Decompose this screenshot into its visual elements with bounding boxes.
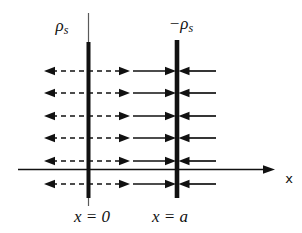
x-axis-arrowhead [263, 165, 275, 174]
solid-arrow-into-plane-left-head [165, 112, 176, 121]
solid-arrow-into-plane-left-head [165, 157, 176, 166]
dashed-arrow-left-head [44, 112, 55, 121]
solid-arrow-into-plane-right-head [179, 67, 190, 76]
solid-arrow-into-plane-left-head [165, 134, 176, 143]
rho-subscript: s [64, 23, 69, 37]
solid-arrow-into-plane-right-head [179, 89, 190, 98]
solid-arrow-into-plane-left-head [165, 180, 176, 189]
minus-rho-symbol: −ρ [169, 14, 189, 33]
negative-plane-density-label: −ρs [169, 14, 194, 35]
minus-rho-subscript: s [188, 21, 193, 35]
x-axis-label: x [285, 171, 293, 186]
dashed-arrow-right-head [119, 112, 130, 121]
dashed-arrow-left-head [44, 157, 55, 166]
figure-canvas: ρs −ρs x = 0 x = a x [0, 0, 302, 233]
solid-arrow-into-plane-left-head [165, 89, 176, 98]
dashed-arrow-left-head [44, 89, 55, 98]
dashed-arrow-right-head [119, 157, 130, 166]
solid-arrow-into-plane-right-head [179, 112, 190, 121]
dashed-arrow-left-head [44, 67, 55, 76]
solid-arrow-into-plane-left-head [165, 67, 176, 76]
dashed-arrow-right-head [119, 67, 130, 76]
positive-plane-density-label: ρs [55, 16, 69, 37]
charged-planes-field-diagram: ρs −ρs x = 0 x = a x [0, 0, 302, 233]
solid-arrow-into-plane-right-head [179, 180, 190, 189]
solid-arrow-into-plane-right-head [179, 134, 190, 143]
negative-plane-position-label: x = a [151, 207, 188, 226]
positive-plane-position-label: x = 0 [73, 207, 111, 226]
dashed-arrow-left-head [44, 134, 55, 143]
dashed-arrow-left-head [44, 180, 55, 189]
rho-symbol: ρ [55, 16, 64, 35]
solid-arrow-into-plane-right-head [179, 157, 190, 166]
dashed-arrow-right-head [119, 89, 130, 98]
dashed-arrow-right-head [119, 134, 130, 143]
dashed-arrow-right-head [119, 180, 130, 189]
